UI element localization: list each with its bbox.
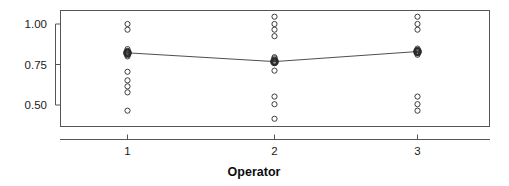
data-point <box>415 21 420 26</box>
data-point <box>272 94 277 99</box>
data-point <box>415 27 420 32</box>
data-point <box>125 78 130 83</box>
data-point <box>415 14 420 19</box>
operator-scatter-chart: 1.00 0.75 0.50 1 2 3 Operator <box>0 0 509 186</box>
data-point <box>272 21 277 26</box>
data-point <box>272 14 277 19</box>
x-axis-title: Operator <box>228 165 281 179</box>
data-point <box>125 27 130 32</box>
y-tick-label-2: 1.00 <box>25 18 47 30</box>
x-tick-label-3: 3 <box>414 145 420 157</box>
data-points-layer <box>125 14 420 121</box>
data-point <box>415 102 420 107</box>
x-tick-label-1: 1 <box>124 145 130 157</box>
data-point <box>272 68 277 73</box>
data-point <box>125 21 130 26</box>
y-tick-label-0: 0.50 <box>25 99 47 111</box>
plot-canvas: 1.00 0.75 0.50 1 2 3 Operator <box>0 0 509 186</box>
data-point <box>125 90 130 95</box>
y-tick-label-1: 0.75 <box>25 59 47 71</box>
data-point <box>272 116 277 121</box>
data-point <box>272 34 277 39</box>
data-point <box>272 27 277 32</box>
data-point <box>125 69 130 74</box>
data-point <box>125 108 130 113</box>
data-point <box>272 102 277 107</box>
data-point <box>415 108 420 113</box>
x-tick-label-2: 2 <box>271 145 277 157</box>
data-point <box>125 84 130 89</box>
data-point <box>415 94 420 99</box>
